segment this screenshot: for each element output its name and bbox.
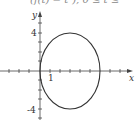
y-axis-label: y	[31, 10, 38, 20]
tick-label-1: 1	[48, 73, 54, 83]
y-axis-arrow-icon	[38, 11, 42, 17]
x-axis-label: x	[129, 73, 134, 83]
ellipse-plot: y x 4 -4 1	[0, 0, 136, 124]
tick-label-4: 4	[31, 28, 37, 38]
tick-label-neg4: -4	[27, 105, 36, 115]
